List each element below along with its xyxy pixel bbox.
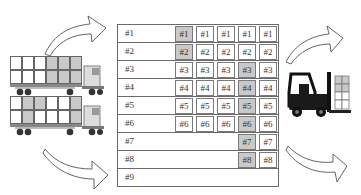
row-label: #4 — [125, 82, 134, 92]
truck-2 — [10, 96, 106, 136]
slot-cell: #8 — [259, 152, 277, 168]
slot-cell: #4 — [175, 80, 193, 96]
table-row: #5#5#5#5#5#5 — [118, 97, 278, 115]
slot-cell-shaded: #8 — [238, 152, 256, 168]
slot-cell: #3 — [259, 62, 277, 78]
slot-cell: #5 — [196, 98, 214, 114]
slot-cell: #6 — [217, 116, 235, 132]
forklift-icon — [285, 70, 357, 120]
curved-arrow-up-right-icon — [42, 12, 112, 62]
slot-cell: #1 — [238, 26, 256, 42]
row-label: #8 — [125, 154, 134, 164]
slot-table: #1#1#1#1#1#1#2#2#2#2#2#2#3#3#3#3#3#3#4#4… — [117, 24, 279, 187]
slot-cell: #4 — [196, 80, 214, 96]
slot-cell-shaded: #5 — [238, 98, 256, 114]
curved-arrow-down-right-icon — [42, 145, 112, 195]
slot-cell: #5 — [259, 98, 277, 114]
table-row: #6#6#6#6#6#6 — [118, 115, 278, 133]
slot-cell: #2 — [196, 44, 214, 60]
slot-cell: #6 — [259, 116, 277, 132]
slot-cell: #3 — [175, 62, 193, 78]
curved-arrow-up-right-icon — [283, 20, 353, 70]
row-label: #1 — [125, 28, 134, 38]
slot-cell: #7 — [259, 134, 277, 150]
slot-cell: #5 — [217, 98, 235, 114]
slot-cell-shaded: #1 — [175, 26, 193, 42]
row-label: #2 — [125, 46, 134, 56]
slot-cell: #5 — [175, 98, 193, 114]
slot-cell: #3 — [217, 62, 235, 78]
row-label: #7 — [125, 136, 134, 146]
row-label: #9 — [125, 172, 134, 182]
slot-cell: #3 — [196, 62, 214, 78]
slot-cell: #6 — [175, 116, 193, 132]
table-row: #3#3#3#3#3#3 — [118, 61, 278, 79]
table-row: #9 — [118, 169, 278, 187]
table-row: #4#4#4#4#4#4 — [118, 79, 278, 97]
truck-icon — [10, 96, 106, 136]
table-row: #7#7#7 — [118, 133, 278, 151]
table-row: #1#1#1#1#1#1 — [118, 25, 278, 43]
slot-cell-shaded: #2 — [175, 44, 193, 60]
table-row: #2#2#2#2#2#2 — [118, 43, 278, 61]
row-label: #6 — [125, 118, 134, 128]
slot-cell: #2 — [238, 44, 256, 60]
slot-cell: #2 — [259, 44, 277, 60]
curved-arrow-down-right-icon — [285, 140, 355, 190]
row-label: #3 — [125, 64, 134, 74]
slot-cell: #4 — [259, 80, 277, 96]
slot-cell-shaded: #4 — [238, 80, 256, 96]
slot-cell-shaded: #3 — [238, 62, 256, 78]
slot-cell: #1 — [217, 26, 235, 42]
slot-cell-shaded: #7 — [238, 134, 256, 150]
truck-1 — [10, 56, 106, 96]
slot-cell: #1 — [259, 26, 277, 42]
slot-cell: #2 — [217, 44, 235, 60]
truck-icon — [10, 56, 106, 96]
slot-cell: #1 — [196, 26, 214, 42]
slot-cell: #4 — [217, 80, 235, 96]
slot-cell-shaded: #6 — [238, 116, 256, 132]
table-row: #8#8#8 — [118, 151, 278, 169]
slot-cell: #6 — [196, 116, 214, 132]
row-label: #5 — [125, 100, 134, 110]
